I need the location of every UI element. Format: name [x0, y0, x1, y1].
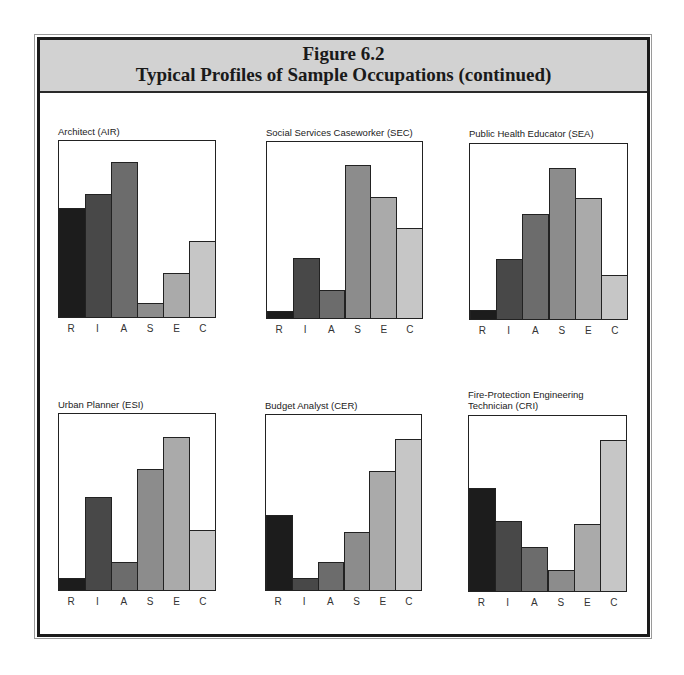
figure-number: Figure 6.2 [40, 44, 647, 64]
figure-frame: Figure 6.2 Typical Profiles of Sample Oc… [37, 37, 650, 637]
figure-title: Typical Profiles of Sample Occupations (… [40, 64, 647, 86]
figure-header: Figure 6.2 Typical Profiles of Sample Oc… [40, 40, 647, 93]
